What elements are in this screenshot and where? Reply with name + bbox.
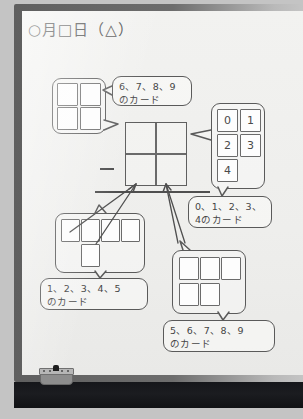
card-group-right-digits: 0 1 2 3 4 <box>211 103 265 189</box>
card-0: 0 <box>217 109 238 132</box>
board-date-title: ○月□日（△） <box>28 18 134 39</box>
card <box>221 257 241 280</box>
card <box>61 219 80 242</box>
card <box>80 83 101 106</box>
card-1: 1 <box>240 109 261 132</box>
card <box>101 219 120 242</box>
answer-rule-line <box>95 191 210 193</box>
bubble-bottom-left-12345: 1、2、3、4、5 のカード <box>40 278 148 310</box>
whiteboard-photo-scene: ○月□日（△） 6、7、8、9 のカード 0 1 2 3 4 0、1、2、3、 … <box>0 0 303 419</box>
grid-horizontal-divider <box>126 153 186 155</box>
card-4: 4 <box>217 159 238 182</box>
card <box>57 83 78 106</box>
card-2: 2 <box>217 134 238 157</box>
card <box>179 283 199 306</box>
card <box>200 257 220 280</box>
card-group-bottom-left <box>55 213 145 273</box>
card <box>121 219 140 242</box>
card <box>81 244 100 267</box>
bubble-top-6789: 6、7、8、9 のカード <box>112 76 192 106</box>
minus-operator-icon <box>100 168 114 170</box>
card-group-top-left <box>52 78 106 134</box>
vertical-subtraction-grid <box>125 122 187 186</box>
marker-tray <box>14 382 303 408</box>
card <box>57 107 78 130</box>
whiteboard-eraser <box>39 367 72 383</box>
card-3: 3 <box>240 134 261 157</box>
bubble-bottom-right-56789: 5、6、7、8、9 のカード <box>163 320 275 352</box>
card <box>200 283 220 306</box>
bubble-right-01234: 0、1、2、3、 4のカード <box>188 196 272 228</box>
card <box>81 219 100 242</box>
eraser-dots <box>42 369 69 373</box>
card-group-bottom-right <box>172 250 246 314</box>
card <box>179 257 199 280</box>
card <box>80 107 101 130</box>
